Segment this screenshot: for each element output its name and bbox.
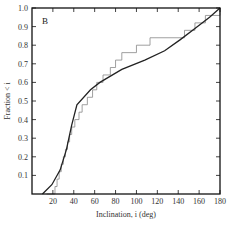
x-tick-label: 60 <box>91 197 99 206</box>
x-tick-label: 20 <box>49 197 57 206</box>
y-tick-label: 0.1 <box>18 171 28 180</box>
y-tick-label: 0.6 <box>18 78 28 87</box>
model-curve-series <box>42 8 220 194</box>
y-tick-label: 0.5 <box>18 97 28 106</box>
x-tick-label: 180 <box>214 197 226 206</box>
plot-area: 20406080100120140160180 0.10.20.30.40.50… <box>18 4 226 206</box>
x-tick-label: 120 <box>151 197 163 206</box>
y-tick-label: 0.7 <box>18 60 28 69</box>
series-layer <box>42 8 220 194</box>
panel-label: B <box>42 16 48 26</box>
x-tick-label: 160 <box>193 197 205 206</box>
y-tick-label: 0.2 <box>18 153 28 162</box>
y-axis-title: Fraction < i <box>3 82 12 120</box>
x-tick-label: 80 <box>112 197 120 206</box>
x-tick-label: 100 <box>130 197 142 206</box>
y-tick-label: 0.9 <box>18 23 28 32</box>
inclination-cdf-chart: 20406080100120140160180 0.10.20.30.40.50… <box>0 0 230 230</box>
y-tick-label: 1.0 <box>18 4 28 13</box>
x-tick-label: 140 <box>172 197 184 206</box>
plot-frame <box>32 8 220 194</box>
x-axis-ticks: 20406080100120140160180 <box>49 8 226 206</box>
y-tick-label: 0.8 <box>18 41 28 50</box>
y-tick-label: 0.3 <box>18 134 28 143</box>
y-tick-label: 0.4 <box>18 116 28 125</box>
x-axis-title: Inclination, i (deg) <box>96 210 156 219</box>
observed-step-series <box>47 8 220 194</box>
x-tick-label: 40 <box>70 197 78 206</box>
